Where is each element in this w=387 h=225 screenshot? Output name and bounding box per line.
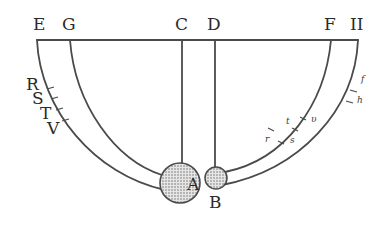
label-f-small: f [360, 74, 366, 84]
label-g: G [62, 14, 76, 34]
label-e: E [33, 14, 45, 34]
label-t-small: t [286, 116, 290, 126]
label-d: D [207, 14, 221, 34]
label-c: C [175, 14, 188, 34]
label-v-small: υ [311, 114, 317, 124]
label-a: A [186, 174, 200, 194]
label-v: V [46, 118, 60, 138]
label-f: F [324, 14, 336, 34]
arc-f [225, 40, 331, 172]
arc-g [70, 40, 162, 175]
ball-b [205, 167, 227, 189]
label-h-small: h [357, 95, 363, 105]
label-s-small: s [290, 135, 295, 145]
label-h: II [350, 14, 363, 34]
label-r-small: r [265, 134, 270, 144]
arc-h [222, 40, 358, 185]
diagram-canvas: E G C D F II R S T V υ t s r f h A B [0, 0, 387, 225]
pendulum-diagram: E G C D F II R S T V υ t s r f h A B [0, 0, 387, 225]
label-b: B [209, 192, 222, 212]
